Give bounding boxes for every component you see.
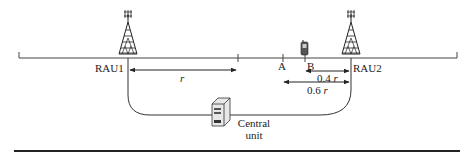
server-icon [212,98,230,126]
rau2-label: RAU2 [353,62,382,74]
rau1-label: RAU1 [95,62,124,74]
mobile-phone-icon [301,40,308,55]
antenna-tower-icon [342,10,360,54]
distance-0-6r-label: 0.6 r [307,84,328,96]
distance-r-label: r [180,72,184,84]
antenna-tower-icon [119,10,137,54]
fiber-link-rau2 [230,58,351,115]
point-a-label: A [278,60,286,72]
central-unit-label: Central unit [235,117,273,141]
road-axis [19,52,457,62]
point-b-label: B [307,60,314,72]
distance-0-4r-label: 0.4 r [317,72,338,84]
fiber-link-rau1 [128,58,212,115]
